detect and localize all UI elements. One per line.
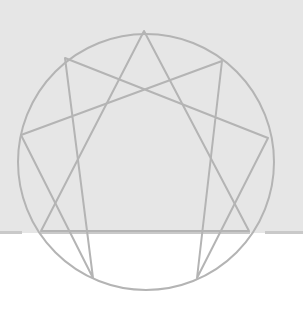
enneagram-symbol	[0, 0, 303, 309]
enneagram-figure	[0, 0, 303, 309]
enneagram-hexad	[21, 58, 268, 278]
enneagram-circle	[18, 34, 274, 290]
